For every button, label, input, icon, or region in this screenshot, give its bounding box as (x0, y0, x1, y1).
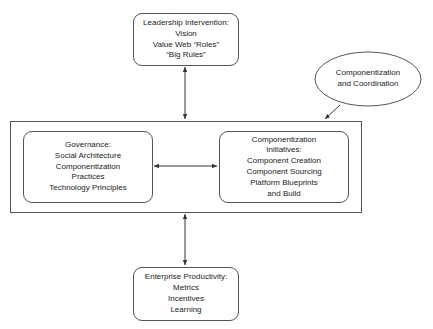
initiatives-title: Initiatives: (266, 145, 302, 156)
componentization-initiatives-box: Componentization Initiatives: Component … (219, 131, 349, 203)
leadership-intervention-box: Leadership Intervention: Vision Value We… (133, 13, 239, 66)
leadership-item: Vision (175, 29, 197, 40)
governance-item: Social Architecture (55, 151, 121, 162)
initiatives-item: Component Sourcing (246, 167, 321, 178)
enterprise-productivity-box: Enterprise Productivity: Metrics Incenti… (133, 267, 239, 321)
leadership-item: Value Web “Roles” (153, 40, 219, 51)
governance-item: Practices (72, 172, 105, 183)
productivity-item: Learning (170, 305, 201, 316)
productivity-item: Incentives (168, 294, 204, 305)
initiatives-item: Component Creation (247, 156, 321, 167)
leadership-title: Leadership Intervention: (143, 18, 229, 29)
leadership-item: “Big Rules” (166, 50, 206, 61)
governance-title: Governance: (65, 140, 111, 151)
productivity-title: Enterprise Productivity: (145, 272, 227, 283)
arrow-coordination-frame (325, 105, 340, 119)
coordination-line: Componentization (336, 68, 400, 79)
governance-item: Technology Principles (49, 183, 126, 194)
productivity-item: Metrics (173, 283, 199, 294)
coordination-line: and Coordination (338, 79, 399, 90)
initiatives-item: Platform Blueprints (250, 178, 318, 189)
coordination-label: Componentization and Coordination (315, 55, 421, 103)
initiatives-item: and Build (267, 189, 300, 200)
governance-item: Componentization (56, 162, 120, 173)
initiatives-title: Componentization (252, 135, 316, 146)
governance-box: Governance: Social Architecture Componen… (23, 131, 153, 203)
